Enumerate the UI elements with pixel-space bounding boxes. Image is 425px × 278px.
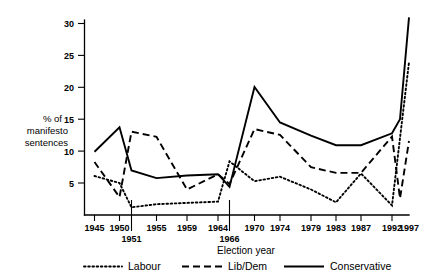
y-axis-ticks: 30 25 20 15 10 5	[64, 19, 85, 189]
x-tick-label-1945: 1945	[84, 223, 104, 233]
x-tick-label-1966: 1966	[219, 234, 239, 244]
series-line-libdem	[95, 129, 410, 198]
y-tick-label-25: 25	[64, 51, 74, 61]
x-tick-label-1970: 1970	[244, 223, 264, 233]
y-tick-label-10: 10	[64, 147, 74, 157]
y-axis-label: % of manifesto sentences	[25, 113, 69, 148]
x-tick-label-1964: 1964	[208, 223, 228, 233]
y-tick-label-15: 15	[64, 115, 74, 125]
series-line-conservative	[95, 17, 410, 187]
y-axis-label-line-1: % of	[43, 113, 62, 124]
x-axis-title: Election year	[217, 245, 275, 256]
chart-figure: % of manifesto sentences 30 25 20 15 10 …	[0, 0, 425, 278]
y-tick-label-5: 5	[69, 179, 74, 189]
x-tick-label-1974: 1974	[270, 223, 290, 233]
legend-label-labour: Labour	[128, 260, 161, 272]
y-axis-label-line-3: sentences	[25, 137, 69, 148]
legend-label-libdem: Lib/Dem	[228, 260, 267, 272]
x-tick-label-1987: 1987	[351, 223, 371, 233]
x-tick-label-1950: 1950	[109, 223, 129, 233]
legend-label-conservative: Conservative	[330, 260, 391, 272]
x-axis-tick-labels-offset: 1951 1966	[121, 234, 239, 244]
x-tick-label-1959: 1959	[177, 223, 197, 233]
x-tick-label-1951: 1951	[121, 234, 141, 244]
y-axis-label-line-2: manifesto	[27, 125, 68, 136]
y-tick-label-30: 30	[64, 19, 74, 29]
y-tick-label-20: 20	[64, 83, 74, 93]
chart-svg: % of manifesto sentences 30 25 20 15 10 …	[0, 0, 425, 278]
x-tick-label-1983: 1983	[326, 223, 346, 233]
x-tick-label-1997: 1997	[399, 223, 419, 233]
x-axis-tick-labels: 1945 1950 1955 1959 1964 1970 1974 1979 …	[84, 223, 419, 233]
chart-legend: Labour Lib/Dem Conservative	[84, 260, 391, 272]
x-tick-label-1955: 1955	[146, 223, 166, 233]
x-tick-label-1979: 1979	[301, 223, 321, 233]
